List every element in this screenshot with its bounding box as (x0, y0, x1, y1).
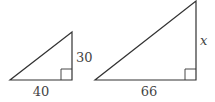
large-triangle: 66 x (95, 1, 208, 99)
small-right-angle-marker (61, 69, 72, 80)
large-height-label: x (200, 33, 208, 48)
small-base-label: 40 (33, 84, 50, 99)
small-height-label: 30 (76, 50, 93, 65)
large-right-angle-marker (185, 69, 196, 80)
large-triangle-outline (95, 1, 196, 80)
similar-triangles-figure: 40 30 66 x (0, 0, 215, 102)
small-triangle-outline (10, 32, 72, 80)
small-triangle: 40 30 (10, 32, 93, 99)
large-base-label: 66 (141, 84, 158, 99)
